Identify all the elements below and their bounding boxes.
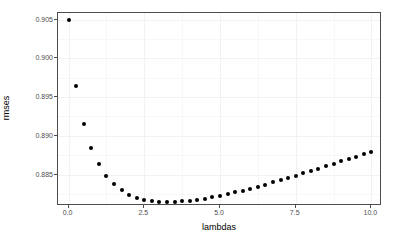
data-point xyxy=(369,150,373,154)
data-point xyxy=(286,176,290,180)
data-point xyxy=(354,155,358,159)
y-tick-mark xyxy=(54,96,57,97)
x-tick-mark xyxy=(370,205,371,208)
y-tick-label: 0.890 xyxy=(35,131,53,138)
y-tick-mark xyxy=(54,57,57,58)
data-point xyxy=(256,185,260,189)
data-point xyxy=(241,189,245,193)
x-tick-label: 7.5 xyxy=(290,209,300,216)
data-point xyxy=(294,174,298,178)
data-point xyxy=(180,199,184,203)
gridline-major-horizontal xyxy=(58,20,380,21)
plot-panel xyxy=(57,12,381,205)
data-point xyxy=(188,199,192,203)
data-point xyxy=(339,159,343,163)
data-point xyxy=(97,162,101,166)
data-point xyxy=(142,198,146,202)
y-axis-title: rmses xyxy=(1,96,11,121)
data-point xyxy=(316,167,320,171)
y-tick-label: 0.905 xyxy=(35,15,53,22)
data-point xyxy=(271,180,275,184)
x-tick-mark xyxy=(68,205,69,208)
data-point xyxy=(89,146,93,150)
x-tick-label: 0.0 xyxy=(63,209,73,216)
data-point xyxy=(248,187,252,191)
data-point xyxy=(263,183,267,187)
data-point xyxy=(67,18,71,22)
data-point xyxy=(112,182,116,186)
data-point xyxy=(279,178,283,182)
y-tick-label: 0.900 xyxy=(35,54,53,61)
data-point xyxy=(218,194,222,198)
data-point xyxy=(120,188,124,192)
data-point xyxy=(82,122,86,126)
x-tick-mark xyxy=(143,205,144,208)
data-point xyxy=(332,162,336,166)
data-point xyxy=(203,197,207,201)
data-point xyxy=(173,200,177,204)
scatter-plot-figure: 0.8850.8900.8950.9000.905 0.02.55.07.510… xyxy=(0,0,401,241)
data-point xyxy=(150,199,154,203)
x-tick-mark xyxy=(295,205,296,208)
y-tick-mark xyxy=(54,19,57,20)
gridline-minor-horizontal xyxy=(58,116,380,117)
data-point xyxy=(104,174,108,178)
data-point xyxy=(324,164,328,168)
data-point xyxy=(347,157,351,161)
data-point xyxy=(135,196,139,200)
gridline-major-horizontal xyxy=(58,97,380,98)
data-point xyxy=(127,193,131,197)
gridline-major-horizontal xyxy=(58,136,380,137)
data-point xyxy=(362,152,366,156)
gridline-minor-horizontal xyxy=(58,78,380,79)
data-point xyxy=(195,198,199,202)
data-point xyxy=(226,192,230,196)
data-point xyxy=(210,195,214,199)
x-tick-mark xyxy=(219,205,220,208)
gridline-major-horizontal xyxy=(58,58,380,59)
x-tick-label: 10.0 xyxy=(364,209,378,216)
gridline-minor-horizontal xyxy=(58,155,380,156)
y-tick-mark xyxy=(54,174,57,175)
y-tick-label: 0.895 xyxy=(35,93,53,100)
data-point xyxy=(74,84,78,88)
gridline-minor-horizontal xyxy=(58,39,380,40)
x-axis-title: lambdas xyxy=(57,222,381,232)
y-tick-label: 0.885 xyxy=(35,170,53,177)
data-point xyxy=(157,200,161,204)
data-point xyxy=(165,200,169,204)
data-point xyxy=(309,169,313,173)
x-tick-label: 2.5 xyxy=(138,209,148,216)
x-tick-label: 5.0 xyxy=(214,209,224,216)
y-tick-mark xyxy=(54,135,57,136)
